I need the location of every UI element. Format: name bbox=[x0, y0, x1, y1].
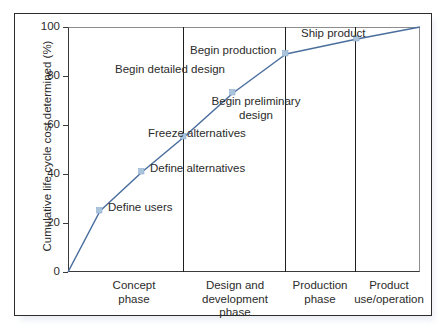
y-tick-label-100: 100 bbox=[20, 21, 60, 33]
y-tick-100 bbox=[63, 27, 68, 28]
annotation-ship-product: Ship product bbox=[301, 27, 366, 41]
phase-label-production-line2: phase bbox=[285, 293, 355, 307]
y-tick-label-80: 80 bbox=[20, 70, 60, 82]
phase-divider-2 bbox=[285, 27, 286, 272]
phase-label-product-use: Product use/operation bbox=[353, 279, 425, 306]
annotation-begin-preliminary-design-line1: Begin preliminary bbox=[196, 95, 316, 109]
annotation-define-alternatives: Define alternatives bbox=[150, 162, 245, 176]
phase-label-design-line3: phase bbox=[185, 306, 285, 320]
y-tick-40 bbox=[63, 174, 68, 175]
phase-label-production-line1: Production bbox=[285, 279, 355, 293]
y-tick-0 bbox=[63, 272, 68, 273]
phase-label-design-development: Design and development phase bbox=[185, 279, 285, 320]
y-tick-label-60: 60 bbox=[20, 119, 60, 131]
phase-label-design-line1: Design and bbox=[185, 279, 285, 293]
chart-figure: 100 80 60 40 20 0 Cumulative life cycle … bbox=[0, 0, 446, 334]
annotation-freeze-alternatives: Freeze alternatives bbox=[148, 127, 246, 141]
phase-label-design-line2: development bbox=[185, 293, 285, 307]
y-tick-60 bbox=[63, 125, 68, 126]
annotation-begin-preliminary-design-line2: design bbox=[196, 109, 316, 123]
annotation-define-users: Define users bbox=[108, 201, 173, 215]
y-tick-label-0: 0 bbox=[20, 266, 60, 278]
phase-label-concept-line2: phase bbox=[86, 293, 182, 307]
phase-label-concept-line1: Concept bbox=[86, 279, 182, 293]
phase-divider-3 bbox=[355, 27, 356, 272]
phase-label-production: Production phase bbox=[285, 279, 355, 306]
y-tick-80 bbox=[63, 76, 68, 77]
y-tick-20 bbox=[63, 223, 68, 224]
y-axis-title: Cumulative life cycle cost determined (%… bbox=[41, 21, 53, 271]
y-tick-label-20: 20 bbox=[20, 217, 60, 229]
phase-label-product-use-line2: use/operation bbox=[353, 293, 425, 307]
y-tick-label-40: 40 bbox=[20, 168, 60, 180]
phase-label-product-use-line1: Product bbox=[353, 279, 425, 293]
annotation-begin-production: Begin production bbox=[190, 44, 276, 58]
annotation-begin-detailed-design: Begin detailed design bbox=[115, 63, 225, 77]
phase-label-concept: Concept phase bbox=[86, 279, 182, 306]
